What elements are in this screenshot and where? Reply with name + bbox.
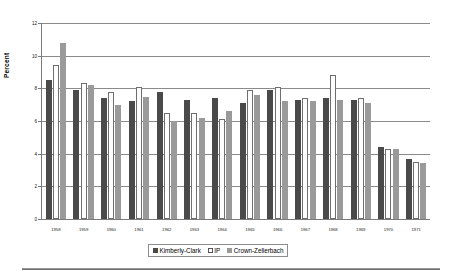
bar — [406, 159, 412, 219]
chart-legend: Kimberly-ClarkIPCrown-Zellerbach — [148, 244, 288, 257]
x-axis-tick-label: 1968 — [319, 227, 347, 237]
legend-label: Crown-Zellerbach — [234, 247, 284, 255]
x-axis-tick-label: 1962 — [153, 227, 181, 237]
bar — [330, 75, 336, 219]
bar-group — [236, 23, 264, 219]
bar — [337, 100, 343, 219]
bar-group — [319, 23, 347, 219]
bar-group — [97, 23, 125, 219]
chart-figure: 024681012 Percent 1958195919601961196219… — [0, 0, 462, 277]
bar — [191, 113, 197, 219]
bar — [240, 103, 246, 219]
y-axis-tick-label: 12 — [32, 21, 37, 26]
bar-group — [125, 23, 153, 219]
x-axis-tick-label: 1965 — [236, 227, 264, 237]
legend-item: Crown-Zellerbach — [227, 247, 283, 255]
x-axis-tick-label: 1960 — [97, 227, 125, 237]
bar-group — [208, 23, 236, 219]
bar — [302, 98, 308, 219]
bar — [351, 100, 357, 219]
bar — [282, 101, 288, 219]
x-axis-tick-label: 1967 — [291, 227, 319, 237]
bar — [115, 105, 121, 219]
bar — [212, 98, 218, 219]
bar — [101, 98, 107, 219]
bar — [88, 85, 94, 219]
legend-swatch-icon — [208, 248, 213, 253]
x-axis-tick-label: 1959 — [70, 227, 98, 237]
bar-groups — [42, 23, 430, 219]
bar-group — [375, 23, 403, 219]
legend-swatch-icon — [227, 248, 232, 253]
x-axis-tick-label: 1970 — [375, 227, 403, 237]
x-axis-tick-label: 1964 — [208, 227, 236, 237]
bar-group — [181, 23, 209, 219]
x-axis-tick-label: 1966 — [264, 227, 292, 237]
x-axis: 1958195919601961196219631964196519661967… — [42, 227, 430, 237]
bar — [385, 149, 391, 219]
bar — [365, 103, 371, 219]
y-axis-tick-label: 2 — [34, 184, 37, 189]
y-axis-tick-label: 8 — [34, 86, 37, 91]
x-axis-tick-label: 1958 — [42, 227, 70, 237]
y-axis-tick-label: 6 — [34, 119, 37, 124]
bar — [164, 113, 170, 219]
bar — [73, 90, 79, 219]
bar — [108, 92, 114, 219]
bar-group — [291, 23, 319, 219]
x-axis-tick-label: 1969 — [347, 227, 375, 237]
y-axis-tick-label: 0 — [34, 217, 37, 222]
bar — [219, 119, 225, 219]
bar — [254, 95, 260, 219]
bar — [143, 97, 149, 220]
y-axis-title: Percent — [3, 53, 10, 78]
bar-group — [70, 23, 98, 219]
bar-group — [347, 23, 375, 219]
bar — [226, 111, 232, 219]
bar — [323, 98, 329, 219]
footer-divider — [22, 268, 440, 270]
bar — [199, 118, 205, 219]
bar — [420, 163, 426, 219]
bar — [46, 80, 52, 219]
bar-group — [42, 23, 70, 219]
bar — [171, 121, 177, 219]
y-axis: 024681012 — [0, 0, 41, 221]
x-axis-tick-label: 1963 — [181, 227, 209, 237]
bar — [310, 101, 316, 219]
x-axis-tick-label: 1961 — [125, 227, 153, 237]
bar — [81, 83, 87, 219]
bar — [184, 100, 190, 219]
bar — [60, 43, 66, 219]
y-axis-tick-label: 10 — [32, 53, 37, 58]
y-axis-tick-label: 4 — [34, 151, 37, 156]
legend-swatch-icon — [153, 248, 158, 253]
bar — [295, 100, 301, 219]
legend-label: IP — [214, 247, 220, 255]
bar — [358, 98, 364, 219]
bar-group — [402, 23, 430, 219]
bar — [378, 147, 384, 219]
legend-item: IP — [208, 247, 220, 255]
bar — [393, 149, 399, 219]
bar — [157, 92, 163, 219]
bar — [129, 101, 135, 219]
bar — [267, 90, 273, 219]
legend-item: Kimberly-Clark — [153, 247, 201, 255]
x-axis-tick-label: 1971 — [402, 227, 430, 237]
bar — [136, 87, 142, 219]
legend-label: Kimberly-Clark — [160, 247, 201, 255]
bar-group — [264, 23, 292, 219]
bar — [247, 90, 253, 219]
bar — [275, 87, 281, 219]
bar — [53, 65, 59, 219]
bar — [413, 162, 419, 219]
bar-group — [153, 23, 181, 219]
